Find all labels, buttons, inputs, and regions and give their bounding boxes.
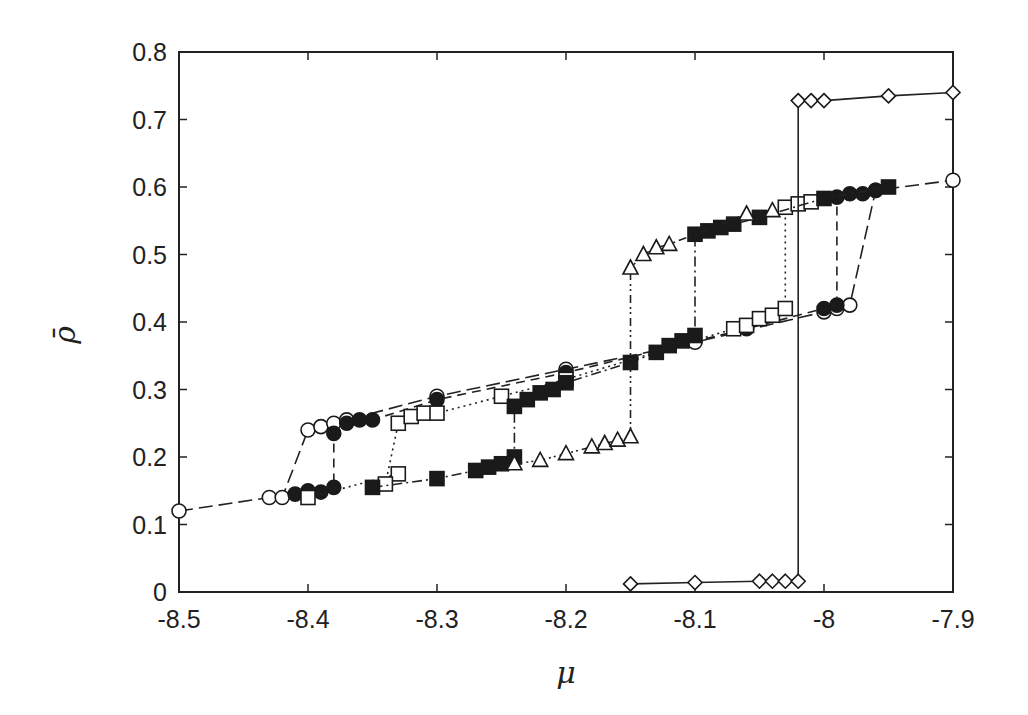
y-tick-label: 0.3 [132, 376, 167, 404]
marker-circle-filled [353, 413, 367, 427]
svg-text:ρ̄: ρ̄ [47, 326, 82, 345]
marker-square-filled [688, 329, 702, 343]
marker-triangle-open [610, 432, 625, 446]
data-series [172, 86, 960, 591]
marker-circle-filled [869, 183, 883, 197]
marker-square-filled [520, 393, 534, 407]
x-tick-label: -8.1 [673, 605, 716, 633]
x-axis-label: μ [556, 655, 576, 690]
marker-circle-filled [430, 393, 444, 407]
series-open-circles [172, 173, 960, 518]
marker-square-filled [430, 472, 444, 486]
marker-circle-filled [327, 480, 341, 494]
x-tick-label: -7.9 [931, 605, 974, 633]
marker-square-filled [559, 376, 573, 390]
marker-circle-filled [327, 426, 341, 440]
x-tick-label: -8.2 [544, 605, 587, 633]
marker-square-open [430, 406, 444, 420]
marker-circle-filled [288, 487, 302, 501]
y-tick-label: 0 [153, 578, 167, 606]
marker-diamond-open [624, 577, 638, 591]
marker-square-filled [662, 339, 676, 353]
marker-square-open [753, 312, 767, 326]
plot-frame [179, 52, 953, 592]
y-tick-label: 0.8 [132, 38, 167, 66]
marker-diamond-open [688, 576, 702, 590]
marker-square-open [778, 200, 792, 214]
marker-square-filled [469, 464, 483, 478]
x-tick-labels: -8.5-8.4-8.3-8.2-8.1-8-7.9 [157, 605, 974, 633]
marker-square-open [404, 410, 418, 424]
marker-square-filled [546, 383, 560, 397]
marker-square-open [417, 406, 431, 420]
marker-diamond-open [817, 94, 831, 108]
marker-square-filled [675, 334, 689, 348]
marker-circle-filled [366, 413, 380, 427]
y-tick-label: 0.4 [132, 308, 167, 336]
marker-square-filled [533, 386, 547, 400]
x-tick-label: -8.4 [286, 605, 329, 633]
marker-square-open [495, 389, 509, 403]
y-axis-label: ρ̄ [47, 326, 82, 345]
marker-circle-open [946, 173, 960, 187]
x-tick-label: -8 [813, 605, 835, 633]
y-tick-label: 0.6 [132, 173, 167, 201]
marker-square-open [727, 322, 741, 336]
marker-square-open [765, 308, 779, 322]
marker-diamond-open [946, 86, 960, 100]
marker-square-open [391, 416, 405, 430]
marker-square-open [740, 318, 754, 332]
marker-circle-filled [830, 298, 844, 312]
marker-triangle-open [533, 452, 548, 466]
marker-square-filled [882, 180, 896, 194]
x-tick-label: -8.5 [157, 605, 200, 633]
marker-circle-open [301, 423, 315, 437]
marker-square-open [778, 302, 792, 316]
marker-circle-open [275, 491, 289, 505]
y-tick-labels: 00.10.20.30.40.50.60.70.8 [132, 38, 167, 606]
marker-diamond-open [791, 574, 805, 588]
marker-circle-filled [843, 187, 857, 201]
marker-triangle-open [623, 429, 638, 443]
x-tick-label: -8.3 [415, 605, 458, 633]
marker-square-filled [649, 345, 663, 359]
hysteresis-chart: -8.5-8.4-8.3-8.2-8.1-8-7.9 00.10.20.30.4… [0, 0, 1028, 715]
marker-circle-open [843, 298, 857, 312]
marker-circle-open [314, 420, 328, 434]
marker-diamond-open [882, 89, 896, 103]
marker-triangle-open [662, 236, 677, 250]
marker-square-filled [817, 191, 831, 205]
marker-circle-filled [856, 187, 870, 201]
y-tick-label: 0.2 [132, 443, 167, 471]
marker-circle-open [172, 504, 186, 518]
marker-square-filled [507, 399, 521, 413]
marker-square-open [301, 491, 315, 505]
marker-square-filled [495, 457, 509, 471]
marker-circle-open [262, 491, 276, 505]
y-tick-label: 0.7 [132, 106, 167, 134]
series-filled-squares [366, 180, 896, 494]
marker-triangle-open [623, 260, 638, 274]
marker-square-open [804, 195, 818, 209]
marker-square-open [391, 467, 405, 481]
y-tick-label: 0.5 [132, 241, 167, 269]
marker-square-open [378, 477, 392, 491]
axis-ticks [179, 52, 953, 592]
marker-circle-filled [817, 302, 831, 316]
y-tick-label: 0.1 [132, 511, 167, 539]
marker-circle-filled [340, 416, 354, 430]
marker-square-filled [482, 460, 496, 474]
marker-triangle-open [584, 439, 599, 453]
marker-square-filled [366, 480, 380, 494]
